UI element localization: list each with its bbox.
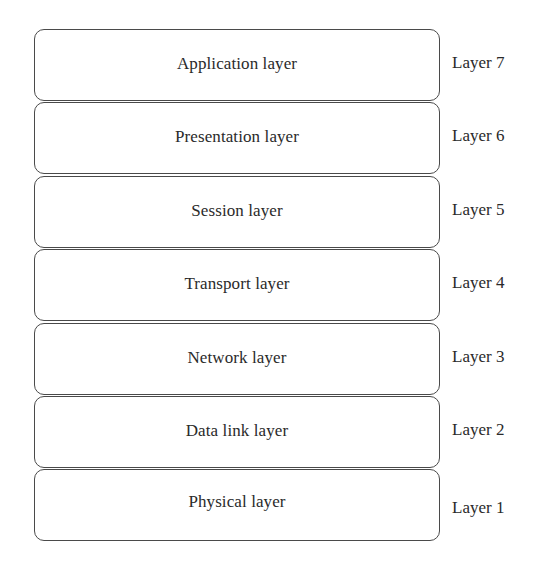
layer-box-network: Network layer <box>34 323 440 395</box>
layer-box-transport: Transport layer <box>34 249 440 321</box>
layer-number: Layer 1 <box>452 472 504 544</box>
layer-name: Transport layer <box>184 274 289 294</box>
layer-row-transport: Transport layer Layer 4 <box>34 249 442 322</box>
layer-box-session: Session layer <box>34 176 440 248</box>
layer-name: Network layer <box>187 348 286 368</box>
layer-number: Layer 7 <box>452 27 504 99</box>
layer-number: Layer 6 <box>452 100 504 172</box>
layer-name: Presentation layer <box>175 127 299 147</box>
layer-number: Layer 2 <box>452 394 504 466</box>
layer-box-physical: Physical layer <box>34 469 440 541</box>
layer-name: Application layer <box>177 54 297 74</box>
layer-row-session: Session layer Layer 5 <box>34 176 442 249</box>
layer-box-presentation: Presentation layer <box>34 102 440 174</box>
layer-row-physical: Physical layer Layer 1 <box>34 469 442 542</box>
layer-number: Layer 3 <box>452 321 504 393</box>
layer-row-application: Application layer Layer 7 <box>34 29 442 102</box>
layer-row-network: Network layer Layer 3 <box>34 323 442 396</box>
layer-number: Layer 5 <box>452 174 504 246</box>
layer-box-application: Application layer <box>34 29 440 101</box>
layer-number: Layer 4 <box>452 247 504 319</box>
layer-name: Session layer <box>191 201 282 221</box>
layer-row-data-link: Data link layer Layer 2 <box>34 396 442 469</box>
osi-layer-stack: Application layer Layer 7 Presentation l… <box>34 29 442 543</box>
layer-row-presentation: Presentation layer Layer 6 <box>34 102 442 175</box>
layer-name: Physical layer <box>188 492 285 512</box>
layer-box-data-link: Data link layer <box>34 396 440 468</box>
layer-name: Data link layer <box>186 421 289 441</box>
